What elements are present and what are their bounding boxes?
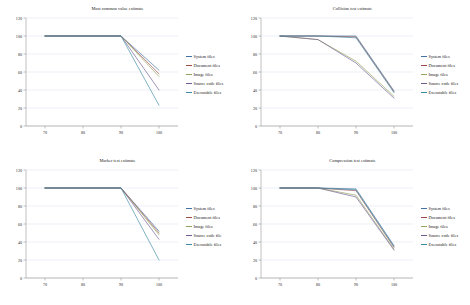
legend-item: System files <box>421 52 469 61</box>
x-axis-tick-label: 80 <box>316 130 320 135</box>
plot-area: 020406080100120708090100 <box>26 18 178 126</box>
legend-line-icon <box>421 217 427 218</box>
legend-item: Executable files <box>186 88 234 97</box>
legend-line-icon <box>186 83 192 84</box>
legend-line-icon <box>186 56 192 57</box>
x-axis-tick-label: 100 <box>156 130 162 135</box>
legend-item-label: System files <box>194 204 215 213</box>
chart-title: Marker test estimate <box>0 158 235 163</box>
legend-item: Image files <box>421 222 469 231</box>
chart-grid: Most common value estimate 0204060801001… <box>0 0 470 305</box>
legend-item-label: Image files <box>429 222 448 231</box>
legend-item-label: Image files <box>429 70 448 79</box>
y-axis-tick-label: 60 <box>245 70 257 75</box>
legend-item-label: Executable files <box>194 240 222 249</box>
x-axis-tick-label: 90 <box>119 130 123 135</box>
legend-item: System files <box>421 204 469 213</box>
chart-title: Collision test estimate <box>235 6 470 11</box>
legend-item-label: Source code files <box>429 231 459 240</box>
legend-line-icon <box>186 92 192 93</box>
y-axis-tick-label: 60 <box>245 222 257 227</box>
legend-line-icon <box>186 74 192 75</box>
y-axis-tick-label: 20 <box>245 258 257 263</box>
legend-item: Document files <box>186 61 234 70</box>
x-axis-tick-label: 70 <box>43 130 47 135</box>
plot-svg <box>261 170 413 278</box>
x-axis-tick-label: 80 <box>81 130 85 135</box>
legend-line-icon <box>186 244 192 245</box>
legend-item-label: Source code files <box>194 79 224 88</box>
legend-item: Image files <box>186 222 234 231</box>
legend-item-label: Document files <box>194 213 220 222</box>
plot-area: 020406080100120708090100 <box>261 18 413 126</box>
legend-item-label: Document files <box>194 61 220 70</box>
legend-item: Source code file <box>186 231 234 240</box>
y-axis-tick-label: 120 <box>10 16 22 21</box>
legend-item: Source code files <box>186 79 234 88</box>
plot-svg <box>26 170 178 278</box>
y-axis-tick-label: 20 <box>10 258 22 263</box>
legend-line-icon <box>421 56 427 57</box>
legend-item: Executable files <box>421 88 469 97</box>
y-axis-tick-label: 60 <box>10 70 22 75</box>
y-axis-tick-label: 40 <box>245 240 257 245</box>
legend-item-label: Source code file <box>194 231 222 240</box>
y-axis-tick-label: 80 <box>10 52 22 57</box>
x-axis-tick-label: 80 <box>81 282 85 287</box>
plot-svg <box>26 18 178 126</box>
y-axis-tick-label: 80 <box>245 204 257 209</box>
y-axis-tick-label: 100 <box>245 186 257 191</box>
y-axis-tick-label: 0 <box>245 276 257 281</box>
y-axis-tick-label: 100 <box>10 186 22 191</box>
y-axis-tick-label: 80 <box>245 52 257 57</box>
y-axis-tick-label: 120 <box>245 168 257 173</box>
chart-legend: System filesDocument filesImage filesSou… <box>421 52 469 97</box>
legend-item-label: System files <box>194 52 215 61</box>
legend-line-icon <box>421 83 427 84</box>
x-axis-tick-label: 100 <box>391 282 397 287</box>
legend-item-label: Document files <box>429 213 455 222</box>
legend-item-label: Source code files <box>429 79 459 88</box>
legend-item: System files <box>186 204 234 213</box>
legend-item: Document files <box>186 213 234 222</box>
legend-item-label: System files <box>429 52 450 61</box>
legend-item: System files <box>186 52 234 61</box>
plot-area: 020406080100120708090100 <box>261 170 413 278</box>
chart-legend: System filesDocument filesImage filesSou… <box>421 204 469 249</box>
legend-line-icon <box>421 208 427 209</box>
chart-panel-most-common-value: Most common value estimate 0204060801001… <box>0 0 235 152</box>
chart-legend: System filesDocument filesImage filesSou… <box>186 204 234 249</box>
legend-line-icon <box>186 226 192 227</box>
x-axis-tick-label: 90 <box>354 282 358 287</box>
plot-area: 020406080100120708090100 <box>26 170 178 278</box>
y-axis-tick-label: 40 <box>245 88 257 93</box>
legend-item-label: Document files <box>429 61 455 70</box>
legend-item-label: Executable files <box>194 88 222 97</box>
legend-line-icon <box>421 65 427 66</box>
plot-svg <box>261 18 413 126</box>
y-axis-tick-label: 0 <box>10 124 22 129</box>
legend-item: Document files <box>421 213 469 222</box>
x-axis-tick-label: 90 <box>119 282 123 287</box>
x-axis-tick-label: 70 <box>278 282 282 287</box>
legend-item: Executable files <box>186 240 234 249</box>
legend-item: Executable files <box>421 240 469 249</box>
legend-line-icon <box>186 217 192 218</box>
legend-item-label: Image files <box>194 222 213 231</box>
y-axis-tick-label: 120 <box>10 168 22 173</box>
legend-line-icon <box>421 74 427 75</box>
y-axis-tick-label: 40 <box>10 88 22 93</box>
legend-line-icon <box>186 235 192 236</box>
chart-panel-compression-test: Compression test estimate 02040608010012… <box>235 152 470 305</box>
x-axis-tick-label: 70 <box>43 282 47 287</box>
x-axis-tick-label: 90 <box>354 130 358 135</box>
legend-line-icon <box>421 92 427 93</box>
legend-line-icon <box>421 235 427 236</box>
y-axis-tick-label: 20 <box>10 106 22 111</box>
y-axis-tick-label: 120 <box>245 16 257 21</box>
chart-panel-marker-test: Marker test estimate 0204060801001207080… <box>0 152 235 305</box>
legend-item: Document files <box>421 61 469 70</box>
x-axis-tick-label: 70 <box>278 130 282 135</box>
legend-line-icon <box>421 244 427 245</box>
x-axis-tick-label: 100 <box>156 282 162 287</box>
